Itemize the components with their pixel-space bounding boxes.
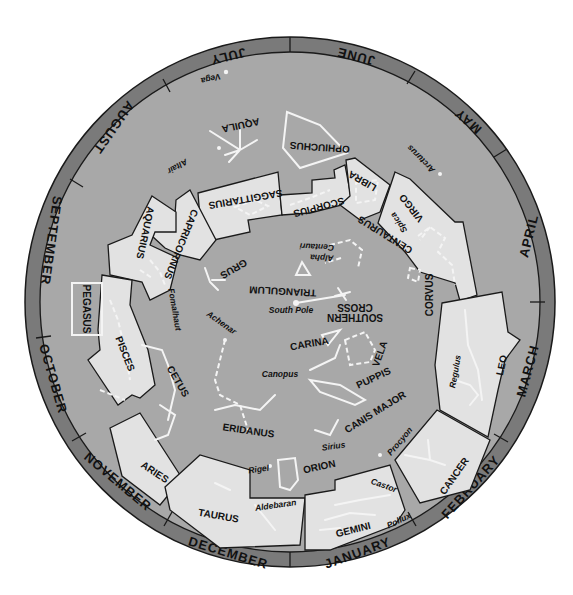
star-centauri: Centauri: [299, 241, 335, 253]
south-pole-label: South Pole: [269, 305, 314, 315]
star-canopus: Canopus: [262, 369, 299, 379]
label-corvus: CORVUS: [424, 273, 435, 316]
star-alpha: Alpha: [310, 252, 335, 263]
label-pegasus: PEGASUS: [81, 285, 92, 334]
star-chart: JULY JUNE MAY APRIL MARCH FEBRUARY JANUA…: [0, 0, 573, 595]
label-cross: CROSS: [337, 302, 373, 313]
